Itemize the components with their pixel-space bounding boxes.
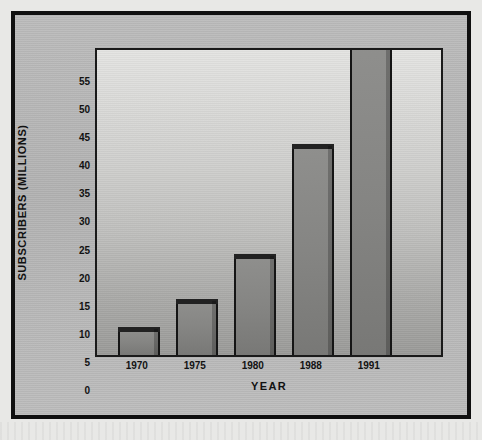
- x-tick-label: 1975: [184, 360, 206, 371]
- y-tick-label: 20: [79, 272, 90, 283]
- bar: [176, 299, 218, 355]
- y-tick-label: 50: [79, 104, 90, 115]
- x-tick-label: 1988: [300, 360, 322, 371]
- y-axis-tick: [95, 77, 97, 79]
- y-tick-label: 10: [79, 328, 90, 339]
- y-axis-tick: [95, 330, 97, 332]
- y-tick-label: 40: [79, 160, 90, 171]
- x-tick-label: 1991: [358, 360, 380, 371]
- y-tick-label: 35: [79, 188, 90, 199]
- y-axis-title: SUBSCRIBERS (MILLIONS): [11, 48, 33, 357]
- y-axis-tick: [95, 302, 97, 304]
- y-axis-tick: [95, 218, 97, 220]
- figure-frame: SUBSCRIBERS (MILLIONS) 05101520253035404…: [11, 11, 471, 419]
- x-tick-label: 1970: [126, 360, 148, 371]
- bar-side-shade: [212, 301, 216, 355]
- y-tick-label: 25: [79, 244, 90, 255]
- bar-side-shade: [328, 146, 332, 355]
- y-tick-label: 30: [79, 216, 90, 227]
- y-tick-label: 15: [79, 300, 90, 311]
- bar-side-shade: [386, 48, 390, 355]
- bar: [350, 48, 392, 355]
- x-axis-labels: 19701975198019881991: [95, 360, 443, 376]
- figure-panel: SUBSCRIBERS (MILLIONS) 05101520253035404…: [15, 15, 467, 415]
- bar: [234, 254, 276, 355]
- plot-area: [95, 48, 443, 357]
- y-axis-tick: [95, 246, 97, 248]
- y-axis-tick: [95, 161, 97, 163]
- bar-side-shade: [270, 256, 274, 355]
- x-axis-title: YEAR: [95, 380, 443, 392]
- bar-side-shade: [154, 329, 158, 355]
- y-axis-tick: [95, 105, 97, 107]
- y-tick-label: 55: [79, 76, 90, 87]
- y-axis-tick: [95, 274, 97, 276]
- y-tick-label: 5: [84, 356, 90, 367]
- y-axis-labels: 0510152025303540455055: [67, 48, 90, 357]
- y-axis-tick: [95, 133, 97, 135]
- bar: [118, 327, 160, 355]
- y-tick-label: 45: [79, 132, 90, 143]
- bar: [292, 144, 334, 355]
- y-axis-tick: [95, 189, 97, 191]
- scanned-page: SUBSCRIBERS (MILLIONS) 05101520253035404…: [0, 0, 482, 440]
- y-tick-label: 0: [84, 385, 90, 396]
- x-tick-label: 1980: [242, 360, 264, 371]
